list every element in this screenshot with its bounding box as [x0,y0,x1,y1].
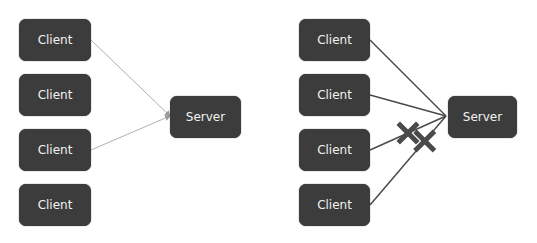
right-client-2: Client [299,74,370,116]
left-server: Server [170,96,241,138]
right-client-3: Client [299,129,370,171]
left-client-1: Client [19,19,91,61]
right-server: Server [448,96,517,138]
left-client-4: Client [19,184,91,226]
left-connection-client-3 [91,116,170,150]
left-connections [91,40,170,150]
right-connection-client-1 [370,40,446,116]
right-client-4: Client [299,184,370,226]
left-client-3: Client [19,129,91,171]
right-connection-client-4 [370,116,446,205]
left-client-2: Client [19,74,91,116]
right-connections [370,40,446,205]
left-connection-client-1 [91,40,170,116]
right-client-1: Client [299,19,370,61]
